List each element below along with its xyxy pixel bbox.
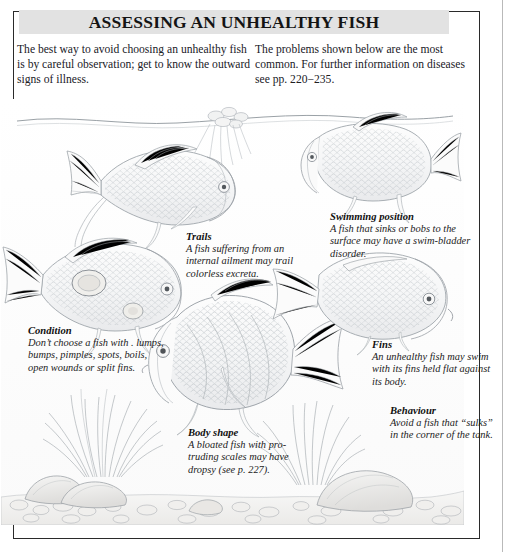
page-root: ASSESSING AN UNHEALTHY FISH The best way… [0,0,512,552]
caption-trails-title: Trails [186,230,298,243]
caption-behaviour-title: Behaviour [390,404,502,417]
caption-fins-title: Fins [372,338,502,351]
caption-behaviour-body: Avoid a fish that “sulks” in the corner … [390,417,502,442]
caption-fins: Fins An unhealthy fish may swim with its… [372,338,502,388]
caption-condition-body: Don’t choose a fish with . lumps, bumps,… [28,337,168,374]
caption-condition-title: Condition [28,324,168,337]
caption-behaviour: Behaviour Avoid a fish that “sulks” in t… [390,404,502,442]
caption-trails-body: A fish suffering from an internal ailmen… [186,243,298,280]
caption-swimming-position-body: A fish that sinks or bobs to the surface… [330,223,480,260]
intro-paragraph-right: The problems shown below are the most co… [255,42,465,87]
caption-body-shape-title: Body shape [188,426,316,439]
caption-condition: Condition Don’t choose a fish with . lum… [28,324,168,374]
page-title: ASSESSING AN UNHEALTHY FISH [19,9,449,35]
caption-swimming-position: Swimming position A fish that sinks or b… [330,210,480,260]
caption-swimming-position-title: Swimming position [330,210,480,223]
page-outer-rule [502,0,503,552]
caption-body-shape: Body shape A bloated fish with pro-trudi… [188,426,316,476]
caption-body-shape-body: A bloated fish with pro-truding scales m… [188,439,316,476]
caption-trails: Trails A fish suffering from an internal… [186,230,298,280]
intro-paragraph-left: The best way to avoid choosing an unheal… [17,42,255,87]
caption-fins-body: An unhealthy fish may swim with its fins… [372,351,502,388]
